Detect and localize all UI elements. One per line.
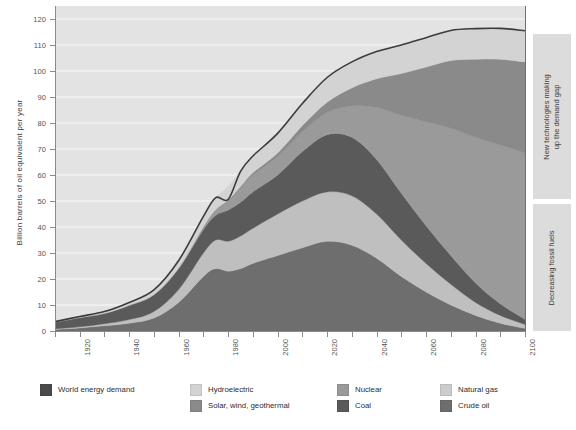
right-axis-line — [525, 6, 526, 331]
x-tick-label: 1980 — [231, 339, 240, 356]
x-tick-label: 1960 — [182, 339, 191, 356]
chart-legend: World energy demandHydroelectricSolar, w… — [0, 374, 576, 430]
y-tick-label: 50 — [37, 197, 46, 206]
y-tick-label: 100 — [33, 67, 46, 76]
plot-area — [55, 6, 525, 331]
legend-label: Hydroelectric — [208, 385, 254, 395]
legend-label: Natural gas — [458, 385, 498, 395]
x-tick-label: 2000 — [281, 339, 290, 356]
legend-label: World energy demand — [58, 385, 135, 395]
x-tick — [55, 332, 56, 337]
y-tick — [50, 149, 55, 150]
x-tick — [253, 332, 254, 337]
x-tick — [451, 332, 452, 337]
legend-item[interactable]: Solar, wind, geothermal — [190, 400, 289, 412]
x-tick-label: 2020 — [330, 339, 339, 356]
x-tick-label: 1920 — [83, 339, 92, 356]
x-tick — [302, 332, 303, 337]
annotation-decreasing-fossil-fuels-text: Decreasing fossil fuels — [547, 230, 557, 305]
x-tick-label: 2060 — [429, 339, 438, 356]
legend-label: Solar, wind, geothermal — [208, 401, 289, 411]
x-tick — [500, 332, 501, 337]
y-tick — [50, 227, 55, 228]
y-tick-label: 40 — [37, 223, 46, 232]
x-tick — [377, 332, 378, 337]
y-tick — [50, 45, 55, 46]
legend-swatch-icon — [337, 400, 349, 412]
legend-item[interactable]: Nuclear — [337, 384, 382, 396]
x-tick — [104, 332, 105, 337]
y-tick-label: 110 — [34, 41, 46, 50]
x-tick-label: 2080 — [479, 339, 488, 356]
legend-label: Coal — [355, 401, 371, 411]
legend-swatch-icon — [337, 384, 349, 396]
x-tick — [426, 332, 427, 337]
legend-item[interactable]: Crude oil — [440, 400, 489, 412]
x-axis-line — [55, 331, 526, 332]
y-tick-label: 60 — [37, 171, 46, 180]
y-tick-label: 90 — [37, 93, 46, 102]
x-tick — [525, 332, 526, 337]
legend-item[interactable]: Natural gas — [440, 384, 498, 396]
y-tick — [50, 175, 55, 176]
y-tick — [50, 253, 55, 254]
x-tick — [352, 332, 353, 337]
x-tick — [401, 332, 402, 337]
legend-swatch-icon — [190, 384, 202, 396]
x-tick — [80, 332, 81, 337]
legend-swatch-icon — [440, 400, 452, 412]
legend-swatch-icon — [40, 384, 52, 396]
x-tick-label: 2100 — [528, 339, 537, 356]
y-tick-label: 10 — [37, 301, 46, 310]
stacked-area-plot — [55, 6, 525, 331]
y-tick-label: 0 — [42, 327, 46, 336]
y-tick-label: 120 — [33, 15, 46, 24]
x-tick — [327, 332, 328, 337]
x-tick — [179, 332, 180, 337]
x-tick — [203, 332, 204, 337]
y-tick — [50, 97, 55, 98]
legend-swatch-icon — [440, 384, 452, 396]
y-tick-label: 20 — [37, 275, 46, 284]
y-tick — [50, 305, 55, 306]
x-tick — [129, 332, 130, 337]
x-tick — [154, 332, 155, 337]
y-tick-label: 70 — [37, 145, 46, 154]
legend-item[interactable]: Coal — [337, 400, 371, 412]
y-tick — [50, 123, 55, 124]
annotation-decreasing-fossil-fuels: Decreasing fossil fuels — [533, 204, 571, 331]
x-tick-label: 1940 — [132, 339, 141, 356]
x-tick — [278, 332, 279, 337]
legend-label: Nuclear — [355, 385, 382, 395]
y-tick — [50, 201, 55, 202]
y-tick — [50, 279, 55, 280]
annotation-new-technologies: New technologies making up the demand ga… — [533, 34, 571, 199]
legend-item[interactable]: World energy demand — [40, 384, 135, 396]
annotation-new-technologies-text: New technologies making up the demand ga… — [542, 74, 562, 159]
y-tick-label: 30 — [37, 249, 46, 258]
y-tick — [50, 19, 55, 20]
legend-label: Crude oil — [458, 401, 489, 411]
x-tick-label: 2040 — [380, 339, 389, 356]
x-tick — [228, 332, 229, 337]
y-tick-label: 80 — [37, 119, 46, 128]
y-tick — [50, 71, 55, 72]
legend-swatch-icon — [190, 400, 202, 412]
chart-page: 0102030405060708090100110120 19201940196… — [0, 0, 576, 430]
y-axis-title: Billion barrels of oil equivalent per ye… — [15, 48, 24, 298]
legend-item[interactable]: Hydroelectric — [190, 384, 254, 396]
y-axis-line — [55, 6, 56, 331]
x-tick — [476, 332, 477, 337]
